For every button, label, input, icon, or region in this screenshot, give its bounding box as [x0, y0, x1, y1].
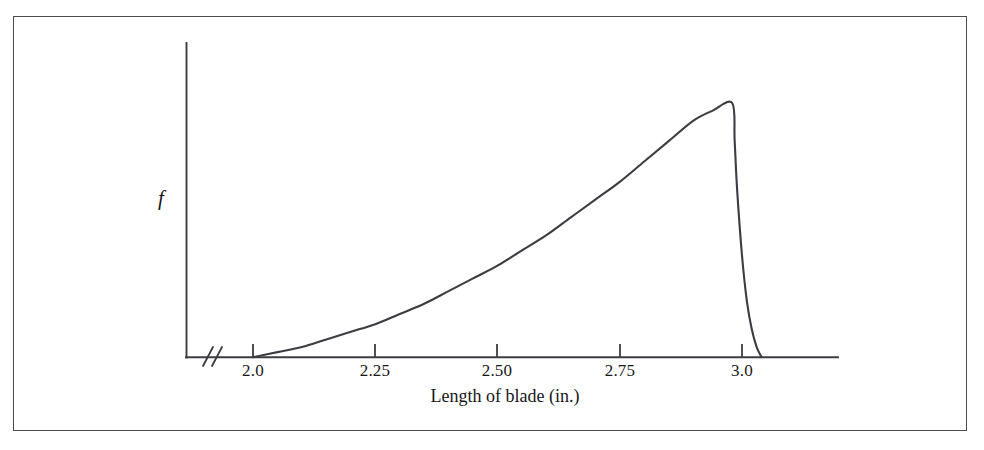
- x-tick-label-2-75: 2.75: [585, 362, 655, 379]
- x-axis-label: Length of blade (in.): [380, 386, 630, 407]
- x-tick-label-2-50: 2.50: [462, 362, 532, 379]
- x-tick-label-2-25: 2.25: [340, 362, 410, 379]
- y-axis-label: f: [148, 186, 174, 211]
- plot-canvas: [0, 0, 984, 450]
- x-tick-marks: [253, 344, 742, 357]
- x-tick-label-3-0: 3.0: [707, 362, 777, 379]
- density-curve: [253, 102, 762, 358]
- x-tick-label-2-0: 2.0: [218, 362, 288, 379]
